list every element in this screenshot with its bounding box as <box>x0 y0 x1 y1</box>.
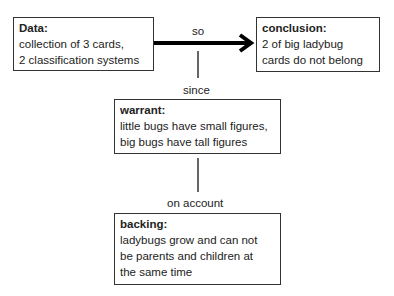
conclusion-line: 2 of big ladybug <box>262 36 374 52</box>
on-account-label: on account <box>167 197 223 209</box>
backing-box: backing: ladybugs grow and can not be pa… <box>114 213 281 285</box>
conclusion-title: conclusion: <box>262 20 374 36</box>
data-box: Data: collection of 3 cards, 2 classific… <box>13 17 154 71</box>
backing-line: ladybugs grow and can not <box>120 232 275 248</box>
data-line: collection of 3 cards, <box>19 36 148 52</box>
data-line: 2 classification systems <box>19 52 148 68</box>
data-title: Data: <box>19 20 148 36</box>
conclusion-box: conclusion: 2 of big ladybug cards do no… <box>256 17 380 72</box>
since-label: since <box>183 84 210 96</box>
backing-line: the same time <box>120 264 275 280</box>
warrant-line: big bugs have tall figures <box>120 134 275 150</box>
warrant-line: little bugs have small figures, <box>120 118 275 134</box>
backing-title: backing: <box>120 216 275 232</box>
warrant-box: warrant: little bugs have small figures,… <box>114 99 281 154</box>
conclusion-line: cards do not belong <box>262 52 374 68</box>
so-label: so <box>192 25 204 37</box>
backing-line: be parents and children at <box>120 248 275 264</box>
warrant-title: warrant: <box>120 102 275 118</box>
